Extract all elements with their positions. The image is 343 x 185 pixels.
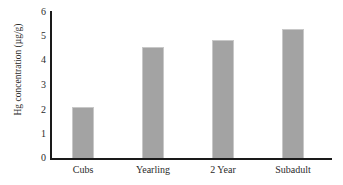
x-tick-label-subadult: Subadult <box>253 163 333 176</box>
bar-yearling <box>142 47 164 158</box>
x-tick-label-cubs: Cubs <box>43 163 123 176</box>
x-axis-line <box>50 158 332 160</box>
y-tick-label: 0 <box>32 153 46 163</box>
bar-2-year <box>212 40 234 158</box>
bar-chart: Hg concentration (µg/g) 6 5 4 3 2 1 0 Cu… <box>0 0 343 185</box>
y-tick-label: 2 <box>32 105 46 115</box>
plot-area <box>51 12 332 158</box>
y-tick-label: 1 <box>32 129 46 139</box>
bar-subadult <box>282 29 304 158</box>
x-tick-label-2-year: 2 Year <box>183 163 263 176</box>
y-axis-tick-labels: 6 5 4 3 2 1 0 <box>28 0 46 185</box>
y-tick-label: 5 <box>32 31 46 41</box>
y-axis-title: Hg concentration (µg/g) <box>13 5 24 135</box>
y-tick-label: 4 <box>32 55 46 65</box>
y-tick-label: 6 <box>32 7 46 17</box>
x-tick-label-yearling: Yearling <box>113 163 193 176</box>
y-tick-label: 3 <box>32 80 46 90</box>
bar-cubs <box>72 107 94 158</box>
